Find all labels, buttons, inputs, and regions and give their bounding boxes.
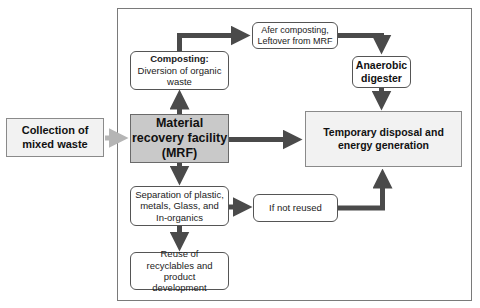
node-collection-of-mixed-waste: Collection of mixed waste <box>6 118 104 157</box>
arrow-composting-to-after-composting <box>180 36 244 52</box>
node-body: Diversion of organic waste <box>131 65 228 88</box>
node-label-line1: Material <box>156 116 203 131</box>
node-after-composting: Afer composting, Leftover from MRF <box>252 22 338 49</box>
node-label-line1: Anaerobic <box>356 59 407 72</box>
node-if-not-reused: If not reused <box>253 194 338 222</box>
node-label: Temporary disposal and energy generation <box>306 126 461 151</box>
node-label-line2: digester <box>361 72 402 85</box>
node-label-line2: Leftover from MRF <box>257 36 332 47</box>
node-composting: Composting: Diversion of organic waste <box>130 51 229 90</box>
node-label: If not reused <box>269 202 322 213</box>
node-label-line2: recovery facility <box>132 131 227 146</box>
node-label: Separation of plastic, metals, Glass, an… <box>131 189 228 223</box>
node-material-recovery-facility: Material recovery facility (MRF) <box>130 114 229 163</box>
node-reuse-of-recyclables: Reuse of recyclables and product develop… <box>130 252 229 290</box>
node-temporary-disposal: Temporary disposal and energy generation <box>305 111 462 167</box>
arrow-not-reused-to-temporary <box>338 176 383 208</box>
node-title: Composting: <box>150 53 209 64</box>
node-label-line3: (MRF) <box>162 146 197 161</box>
node-label: Collection of mixed waste <box>7 124 103 150</box>
arrow-after-composting-to-anaerobic <box>338 36 382 48</box>
node-anaerobic-digester: Anaerobic digester <box>352 56 411 88</box>
node-separation: Separation of plastic, metals, Glass, an… <box>130 186 229 226</box>
node-label-line1: Afer composting, <box>261 25 329 36</box>
node-label: Reuse of recyclables and product develop… <box>131 248 228 294</box>
